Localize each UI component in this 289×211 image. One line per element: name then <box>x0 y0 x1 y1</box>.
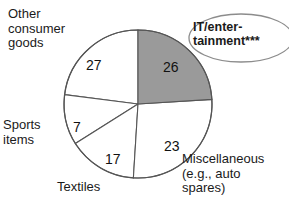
slice-label-it-entertainment: IT/enter- tainment*** <box>193 20 260 48</box>
slice-label-sports-items: Sports items <box>3 118 41 147</box>
slice-label-other-consumer-goods: Other consumer goods <box>8 7 65 51</box>
slice-value-textiles: 17 <box>105 152 121 167</box>
slice-value-miscellaneous: 23 <box>164 139 180 154</box>
slice-value-it-entertainment: 26 <box>163 60 179 75</box>
pie-chart-figure: Other consumer goods Sports items Textil… <box>0 0 289 211</box>
slice-label-miscellaneous: Miscellaneous (e.g., auto spares) <box>182 152 264 196</box>
slice-label-textiles: Textiles <box>57 180 100 195</box>
slice-value-other-consumer-goods: 27 <box>86 58 102 73</box>
slice-value-sports-items: 7 <box>73 120 81 135</box>
